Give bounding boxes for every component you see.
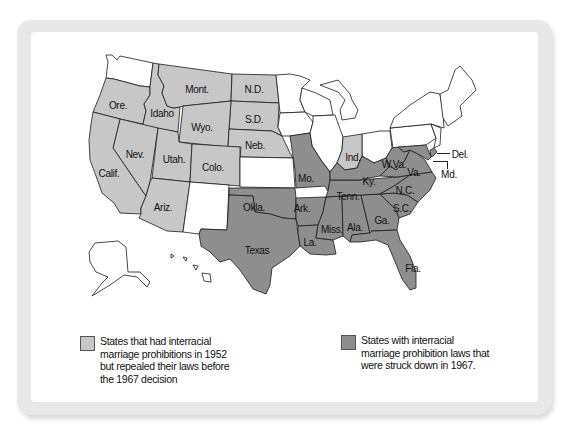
- label-ind: Ind.: [345, 152, 360, 163]
- legend-swatch-dark: [341, 335, 356, 350]
- label-nc: N.C.: [396, 185, 415, 196]
- legend-line: marriage prohibitions in 1952: [100, 348, 229, 361]
- del-leader-line: [437, 153, 450, 154]
- label-fla: Fla.: [405, 263, 420, 274]
- label-neb: Neb.: [245, 140, 265, 151]
- state-alaska: [89, 241, 150, 296]
- state-new-york: [390, 92, 444, 128]
- label-sc: S.C.: [393, 203, 411, 214]
- label-idaho: Idaho: [150, 108, 174, 119]
- legend-line: the 1967 decision: [100, 373, 229, 386]
- state-hawaii: [171, 254, 211, 282]
- legend-line: States with interracial: [361, 334, 489, 347]
- label-okla: Okla.: [243, 202, 265, 213]
- label-utah: Utah.: [163, 154, 185, 165]
- state-new-england: [440, 66, 476, 126]
- legend-line: States that had interracial: [100, 335, 229, 348]
- label-wyo: Wyo.: [191, 122, 213, 133]
- label-del: Del.: [452, 149, 469, 160]
- state-new-mexico: [183, 182, 229, 234]
- label-wva: W.Va.: [382, 159, 406, 170]
- state-delaware: [430, 148, 437, 157]
- md-leader-line: [433, 161, 447, 162]
- label-ky: Ky.: [363, 176, 376, 187]
- label-ark: Ark.: [294, 203, 311, 214]
- legend-swatch-light: [80, 336, 95, 351]
- label-ariz: Ariz.: [154, 202, 173, 213]
- label-ore: Ore.: [109, 100, 127, 111]
- legend-line: marriage prohibition laws that: [361, 347, 489, 360]
- legend-line: were struck down in 1967.: [361, 359, 489, 372]
- legend-item-struck-down: States with interracial marriage prohibi…: [341, 334, 489, 372]
- label-nd: N.D.: [245, 84, 264, 95]
- label-miss: Miss.: [321, 224, 343, 235]
- label-tenn: Tenn.: [337, 191, 360, 202]
- label-mo: Mo.: [298, 173, 314, 184]
- label-sd: S.D.: [245, 114, 263, 125]
- label-calif: Calif.: [99, 168, 120, 179]
- label-la: La.: [303, 237, 316, 248]
- label-texas: Texas: [245, 245, 270, 256]
- legend-item-repealed: States that had interracial marriage pro…: [80, 335, 229, 385]
- label-ga: Ga.: [374, 215, 389, 226]
- label-colo: Colo.: [202, 162, 224, 173]
- label-nev: Nev.: [126, 149, 145, 160]
- state-wisconsin: [300, 88, 333, 116]
- legend-line: but repealed their laws before: [100, 360, 229, 373]
- label-ala: Ala.: [347, 222, 363, 233]
- state-iowa: [278, 112, 313, 136]
- label-va: Va.: [407, 167, 420, 178]
- legend-text-repealed: States that had interracial marriage pro…: [100, 335, 229, 385]
- label-mont: Mont.: [185, 84, 209, 95]
- legend-text-struck-down: States with interracial marriage prohibi…: [361, 334, 489, 372]
- state-florida: [350, 230, 416, 290]
- state-kansas: [240, 157, 295, 188]
- label-md: Md.: [441, 169, 457, 180]
